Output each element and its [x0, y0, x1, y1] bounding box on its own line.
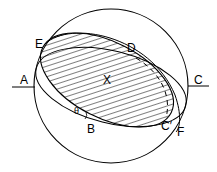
label-C: C	[194, 74, 203, 86]
label-theta: θ	[74, 107, 79, 116]
label-A: A	[20, 74, 28, 86]
label-F: F	[177, 126, 184, 138]
theta-arc	[85, 112, 87, 119]
label-D: D	[127, 42, 136, 54]
label-C-prime: C′	[161, 120, 172, 132]
label-X: X	[103, 74, 111, 86]
label-B: B	[87, 123, 95, 135]
label-E: E	[35, 38, 43, 50]
